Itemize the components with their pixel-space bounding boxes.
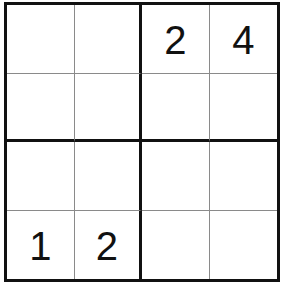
cell-r3-c1[interactable] <box>7 142 75 211</box>
cell-r3-c2[interactable] <box>75 142 143 211</box>
cell-value: 4 <box>232 18 254 60</box>
cell-value: 1 <box>29 224 51 266</box>
cell-r4-c3[interactable] <box>142 211 210 280</box>
cell-r3-c4[interactable] <box>210 142 278 211</box>
cell-r2-c2[interactable] <box>75 74 143 143</box>
cell-r4-c1[interactable]: 1 <box>7 211 75 280</box>
cell-r3-c3[interactable] <box>142 142 210 211</box>
cell-r2-c4[interactable] <box>210 74 278 143</box>
cell-r1-c1[interactable] <box>7 5 75 74</box>
cell-r2-c3[interactable] <box>142 74 210 143</box>
cell-r4-c2[interactable]: 2 <box>75 211 143 280</box>
cell-r1-c4[interactable]: 4 <box>210 5 278 74</box>
cell-r2-c1[interactable] <box>7 74 75 143</box>
cell-r1-c3[interactable]: 2 <box>142 5 210 74</box>
cell-value: 2 <box>96 224 118 266</box>
cell-value: 2 <box>164 18 186 60</box>
cell-r1-c2[interactable] <box>75 5 143 74</box>
sudoku-board: 2 4 1 2 <box>4 2 280 282</box>
cell-r4-c4[interactable] <box>210 211 278 280</box>
